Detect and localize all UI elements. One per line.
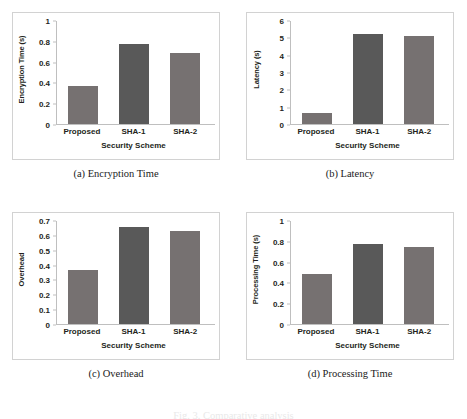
chart-box-d: Processing Time (s) 00.20.40.60.81 Propo… — [246, 212, 454, 360]
plot-area-c — [56, 221, 211, 325]
y-tick-label: 1 — [46, 17, 50, 26]
y-ticks-d: 00.20.40.60.81 — [261, 221, 287, 325]
bar-slot — [108, 221, 159, 324]
y-ticks-a: 00.20.40.60.81 — [27, 21, 53, 125]
x-axis-line-b — [291, 124, 449, 125]
panel-encryption-time: Encryption Time (s) 00.20.40.60.81 Propo… — [12, 12, 220, 192]
bar-slot — [342, 21, 393, 124]
y-tick-label: 0.8 — [273, 237, 284, 246]
figure-bottom-caption: Fig. 3. Comparative analysis — [0, 410, 467, 419]
bar-sha-2 — [170, 53, 200, 124]
y-tick-label: 0.4 — [39, 79, 50, 88]
y-tick-label: 1 — [280, 103, 284, 112]
y-axis-title-a-text: Encryption Time (s) — [18, 35, 27, 103]
bars-d — [291, 221, 445, 324]
bar-slot — [291, 21, 342, 124]
x-labels-d: ProposedSHA-1SHA-2 — [290, 327, 445, 336]
x-tick-label: Proposed — [290, 327, 342, 336]
y-tick-label: 0.2 — [273, 300, 284, 309]
bar-sha-1 — [119, 44, 149, 124]
y-axis-title-d-text: Processing Time (s) — [252, 234, 261, 303]
bars-b — [291, 21, 445, 124]
plot-area-a — [56, 21, 211, 125]
bar-sha-1 — [119, 227, 149, 324]
y-ticks-c: 00.10.20.30.40.50.60.7 — [27, 221, 53, 325]
x-axis-line-c — [57, 324, 215, 325]
y-tick-label: 0.3 — [39, 276, 50, 285]
x-axis-title-c: Security Scheme — [56, 341, 211, 350]
bar-slot — [108, 21, 159, 124]
x-tick-label: Proposed — [290, 127, 342, 136]
bar-slot — [394, 221, 445, 324]
x-labels-c: ProposedSHA-1SHA-2 — [56, 327, 211, 336]
bar-slot — [291, 221, 342, 324]
y-tick-label: 4 — [280, 51, 284, 60]
plot-area-d — [290, 221, 445, 325]
bar-slot — [342, 221, 393, 324]
y-tick-label: 1 — [280, 217, 284, 226]
x-tick-label: SHA-1 — [342, 327, 394, 336]
chart-box-c: Overhead 00.10.20.30.40.50.60.7 Proposed… — [12, 212, 220, 360]
bar-sha-2 — [170, 231, 200, 324]
figure-grid: Encryption Time (s) 00.20.40.60.81 Propo… — [0, 0, 467, 419]
chart-box-b: Latency (s) 0123456 ProposedSHA-1SHA-2 S… — [246, 12, 454, 160]
x-tick-label: SHA-2 — [393, 127, 445, 136]
panel-processing-time: Processing Time (s) 00.20.40.60.81 Propo… — [246, 212, 454, 392]
x-axis-line-d — [291, 324, 449, 325]
x-tick-label: SHA-1 — [342, 127, 394, 136]
x-tick-label: SHA-2 — [159, 127, 211, 136]
x-tick-label: SHA-1 — [108, 327, 160, 336]
panel-overhead: Overhead 00.10.20.30.40.50.60.7 Proposed… — [12, 212, 220, 392]
x-axis-title-d: Security Scheme — [290, 341, 445, 350]
bar-slot — [160, 21, 211, 124]
x-axis-title-a: Security Scheme — [56, 141, 211, 150]
panel-caption-a: (a) Encryption Time — [12, 168, 220, 179]
y-tick-label: 6 — [280, 17, 284, 26]
y-tick-label: 0.6 — [39, 58, 50, 67]
panel-caption-b: (b) Latency — [246, 168, 454, 179]
bars-a — [57, 21, 211, 124]
y-tick-label: 0.2 — [39, 291, 50, 300]
plot-area-b — [290, 21, 445, 125]
y-tick-label: 0.4 — [39, 261, 50, 270]
bar-sha-2 — [404, 36, 434, 124]
bar-sha-1 — [353, 244, 383, 324]
y-tick-label: 0 — [280, 321, 284, 330]
chart-box-a: Encryption Time (s) 00.20.40.60.81 Propo… — [12, 12, 220, 160]
y-tick-label: 0.2 — [39, 100, 50, 109]
x-tick-label: SHA-2 — [393, 327, 445, 336]
y-axis-title-c-text: Overhead — [18, 252, 27, 286]
bar-proposed — [302, 274, 332, 324]
x-tick-label: SHA-2 — [159, 327, 211, 336]
bar-proposed — [68, 270, 98, 324]
y-tick-label: 0.6 — [273, 258, 284, 267]
bar-slot — [394, 21, 445, 124]
y-tick-label: 0.4 — [273, 279, 284, 288]
y-tick-label: 3 — [280, 69, 284, 78]
y-tick-label: 5 — [280, 34, 284, 43]
y-tick-label: 0 — [280, 121, 284, 130]
x-tick-label: Proposed — [56, 127, 108, 136]
y-axis-title-b-text: Latency (s) — [252, 50, 261, 89]
panel-caption-d: (d) Processing Time — [246, 368, 454, 379]
bar-proposed — [302, 113, 332, 124]
y-tick-label: 0.8 — [39, 37, 50, 46]
y-tick-label: 0.6 — [39, 231, 50, 240]
bars-c — [57, 221, 211, 324]
bar-sha-1 — [353, 34, 383, 124]
y-tick-label: 0 — [46, 321, 50, 330]
bar-sha-2 — [404, 247, 434, 324]
panel-caption-c: (c) Overhead — [12, 368, 220, 379]
y-tick-label: 2 — [280, 86, 284, 95]
bar-slot — [57, 221, 108, 324]
bar-slot — [57, 21, 108, 124]
y-tick-label: 0.5 — [39, 246, 50, 255]
x-tick-label: Proposed — [56, 327, 108, 336]
x-axis-line-a — [57, 124, 215, 125]
x-labels-b: ProposedSHA-1SHA-2 — [290, 127, 445, 136]
y-tick-label: 0.7 — [39, 217, 50, 226]
bar-proposed — [68, 86, 98, 124]
panel-latency: Latency (s) 0123456 ProposedSHA-1SHA-2 S… — [246, 12, 454, 192]
x-axis-title-b: Security Scheme — [290, 141, 445, 150]
x-labels-a: ProposedSHA-1SHA-2 — [56, 127, 211, 136]
